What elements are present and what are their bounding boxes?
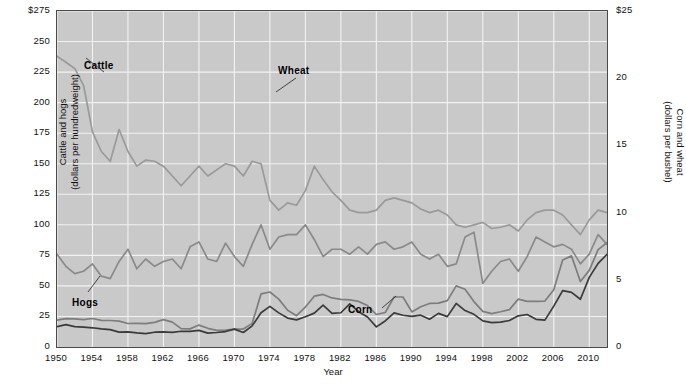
series-label-corn: Corn xyxy=(348,304,373,315)
x-axis-tick: 1998 xyxy=(462,352,502,363)
x-axis-tick: 1966 xyxy=(178,352,218,363)
x-axis-tick: 1990 xyxy=(391,352,431,363)
y-axis-right-title-line2: (dollars per bushel) xyxy=(662,72,674,212)
y-axis-left-tick: 0 xyxy=(0,340,50,351)
y-axis-left-title: Cattle and hogs (dollars per hundredweig… xyxy=(57,57,81,207)
y-axis-left-tick: 125 xyxy=(0,187,50,198)
x-axis-tick: 1994 xyxy=(426,352,466,363)
x-axis-tick: 2006 xyxy=(533,352,573,363)
plot-area xyxy=(56,10,608,348)
y-axis-left-tick: $275 xyxy=(0,4,50,15)
y-axis-left-tick: 200 xyxy=(0,96,50,107)
y-axis-left-tick: 175 xyxy=(0,126,50,137)
y-axis-left-tick: 25 xyxy=(0,309,50,320)
y-axis-left-tick: 225 xyxy=(0,65,50,76)
y-axis-right-tick: 20 xyxy=(616,71,627,82)
x-axis-tick: 1958 xyxy=(107,352,147,363)
y-axis-left-tick: 50 xyxy=(0,279,50,290)
x-axis-tick: 1974 xyxy=(249,352,289,363)
y-axis-right-tick: 10 xyxy=(616,206,627,217)
series-label-wheat: Wheat xyxy=(278,65,310,76)
x-axis-title: Year xyxy=(0,366,666,377)
x-axis-tick: 2010 xyxy=(568,352,608,363)
x-axis-tick: 2002 xyxy=(497,352,537,363)
x-axis-tick: 1986 xyxy=(355,352,395,363)
plot-svg xyxy=(57,11,607,347)
series-label-cattle: Cattle xyxy=(84,60,114,71)
x-axis-tick: 1950 xyxy=(36,352,76,363)
x-axis-tick: 1962 xyxy=(142,352,182,363)
series-label-hogs: Hogs xyxy=(72,297,98,308)
y-axis-left-title-line1: Cattle and hogs xyxy=(57,57,69,207)
y-axis-left-tick: 100 xyxy=(0,218,50,229)
y-axis-right-tick: 5 xyxy=(616,273,621,284)
x-axis-tick: 1982 xyxy=(320,352,360,363)
y-axis-right-title-line1: Corn and wheat xyxy=(674,72,686,212)
x-axis-tick: 1978 xyxy=(284,352,324,363)
x-axis-tick: 1954 xyxy=(71,352,111,363)
y-axis-left-tick: 75 xyxy=(0,248,50,259)
y-axis-left-title-line2: (dollars per hundredweight) xyxy=(69,57,81,207)
y-axis-left-tick: 250 xyxy=(0,35,50,46)
x-axis-tick: 1970 xyxy=(213,352,253,363)
y-axis-left-tick: 150 xyxy=(0,157,50,168)
y-axis-right-title: Corn and wheat (dollars per bushel) xyxy=(662,72,686,212)
y-axis-right-tick: 0 xyxy=(616,340,621,351)
y-axis-right-tick: 15 xyxy=(616,138,627,149)
y-axis-right-tick: $25 xyxy=(616,4,632,15)
